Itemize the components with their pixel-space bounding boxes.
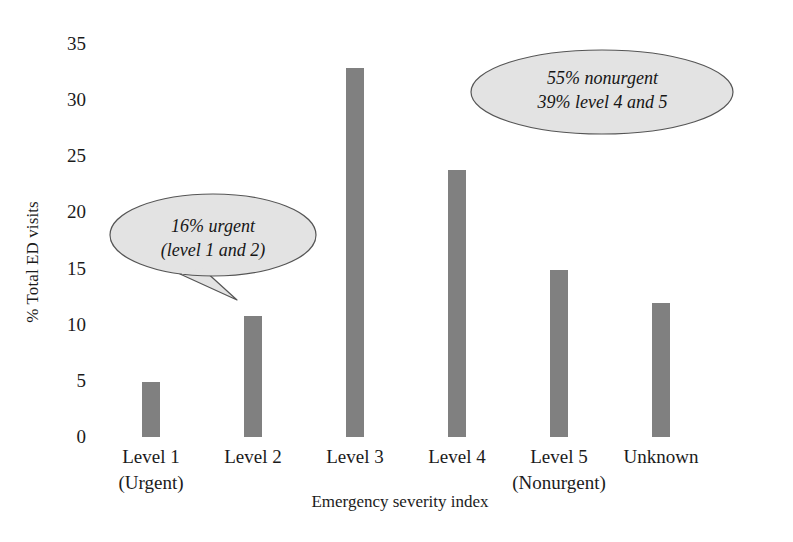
- bar-level-1: [142, 382, 160, 437]
- x-axis-title: Emergency severity index: [255, 492, 545, 512]
- annotation-callout-nonurgent: 55% nonurgent 39% level 4 and 5: [470, 47, 735, 137]
- bar-level-5: [550, 270, 568, 437]
- annotation-callout-nonurgent-text: 55% nonurgent 39% level 4 and 5: [470, 66, 735, 114]
- annotation-line-2: 39% level 4 and 5: [538, 92, 668, 112]
- y-axis-tick-label: 30: [42, 90, 86, 109]
- bar-slot: [304, 44, 406, 437]
- bar-chart: % Total ED visits 0 5 10 15 20 25 30 35 …: [0, 0, 793, 542]
- y-axis-tick-label: 15: [42, 259, 86, 278]
- x-axis-tick-label-line1: Level 5: [530, 446, 588, 467]
- y-axis-tick-label: 10: [42, 315, 86, 334]
- annotation-callout-urgent-text: 16% urgent (level 1 and 2): [108, 214, 318, 262]
- annotation-line-1: 55% nonurgent: [547, 68, 658, 88]
- y-axis-tick-label: 25: [42, 146, 86, 165]
- bar-level-2: [244, 316, 262, 437]
- y-axis-tick-label: 20: [42, 202, 86, 221]
- y-axis-tick-label: 5: [42, 371, 86, 390]
- annotation-callout-urgent: 16% urgent (level 1 and 2): [108, 192, 318, 307]
- annotation-line-1: 16% urgent: [171, 216, 255, 236]
- bar-level-3: [346, 68, 364, 437]
- x-axis-tick-label: Unknown: [591, 444, 731, 470]
- y-axis-tick-label: 0: [42, 427, 86, 446]
- annotation-line-2: (level 1 and 2): [161, 240, 265, 260]
- x-axis-tick-label-line1: Unknown: [624, 446, 699, 467]
- x-axis-tick-label-line1: Level 2: [224, 446, 282, 467]
- bar-level-4: [448, 170, 466, 437]
- x-axis-tick-label-line1: Level 4: [428, 446, 486, 467]
- x-axis-tick-label-line1: Level 1: [122, 446, 180, 467]
- y-axis-tick-label: 35: [42, 34, 86, 53]
- y-axis-title: % Total ED visits: [23, 167, 43, 357]
- bar-unknown: [652, 303, 670, 437]
- x-axis-tick-label-line1: Level 3: [326, 446, 384, 467]
- x-axis-tick-label-line2: (Urgent): [81, 470, 221, 496]
